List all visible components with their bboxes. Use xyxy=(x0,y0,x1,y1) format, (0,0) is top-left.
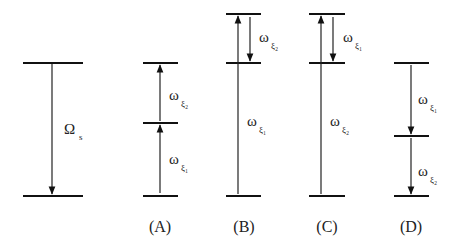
xi1-subscript: ξ₁ xyxy=(259,125,266,135)
xi1-subscript: ξ₁ xyxy=(181,163,188,173)
omega-label: ω xyxy=(418,91,428,107)
omega-label: ω xyxy=(418,163,428,179)
omega-label: ω xyxy=(169,151,179,167)
xi2-subscript: ξ₂ xyxy=(271,41,278,51)
caption-b: (B) xyxy=(233,218,254,236)
xi2-subscript: ξ₂ xyxy=(342,125,349,135)
energy-level-diagram: Ω s ω ξ₂ ω ξ₁ (A) ω ξ₂ ω ξ₁ (B) ω ξ₁ ω xyxy=(0,0,458,252)
caption-c: (C) xyxy=(316,218,337,236)
panel-d: ω ξ₁ ω ξ₂ (D) xyxy=(394,63,437,236)
omega-s-label: Ω xyxy=(64,121,75,137)
omega-s-subscript: s xyxy=(79,132,83,142)
xi1-subscript: ξ₁ xyxy=(430,103,437,113)
caption-a: (A) xyxy=(149,218,171,236)
omega-label: ω xyxy=(343,29,353,45)
omega-label: ω xyxy=(330,113,340,129)
omega-label: ω xyxy=(169,87,179,103)
omega-label: ω xyxy=(259,29,269,45)
panel-a: ω ξ₂ ω ξ₁ (A) xyxy=(143,63,188,236)
caption-d: (D) xyxy=(400,218,422,236)
xi1-subscript: ξ₁ xyxy=(355,41,362,51)
xi2-subscript: ξ₂ xyxy=(430,175,437,185)
omega-label: ω xyxy=(247,113,257,129)
panel-b: ω ξ₂ ω ξ₁ (B) xyxy=(226,14,278,236)
panel-c: ω ξ₁ ω ξ₂ (C) xyxy=(309,14,362,236)
xi2-subscript: ξ₂ xyxy=(181,99,188,109)
panel-omega-s: Ω s xyxy=(23,63,83,196)
